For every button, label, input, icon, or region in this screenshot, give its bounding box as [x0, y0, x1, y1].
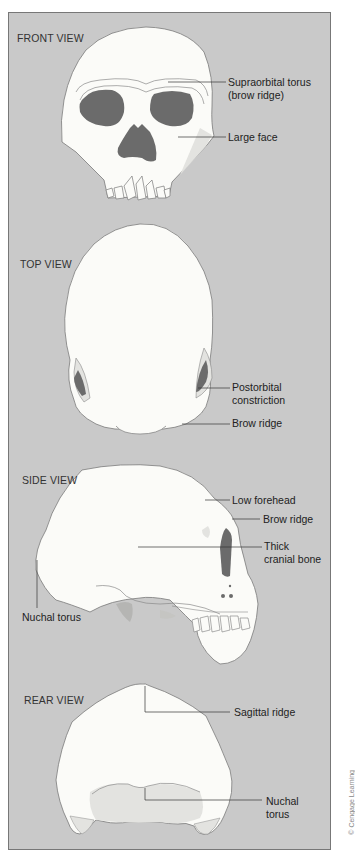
label-constriction: constriction [232, 394, 285, 407]
label-torus: torus [266, 808, 289, 821]
rear-view-skull [56, 684, 232, 835]
nasal-dot-2 [229, 594, 233, 598]
rear-view-title: REAR VIEW [24, 694, 84, 706]
cheek-patch [160, 610, 176, 619]
label-brow-ridge-paren: (brow ridge) [228, 89, 284, 102]
top-view-skull [65, 224, 213, 434]
label-nuchal-torus-side: Nuchal torus [22, 611, 81, 624]
temporal-patch [116, 602, 133, 622]
front-view-skull [61, 27, 214, 200]
side-view-title: SIDE VIEW [22, 474, 77, 486]
label-side-brow-ridge: Brow ridge [263, 513, 313, 526]
label-sagittal-ridge: Sagittal ridge [234, 706, 295, 719]
label-postorbital: Postorbital [232, 381, 282, 394]
label-large-face: Large face [228, 131, 278, 144]
top-view-title: TOP VIEW [20, 258, 72, 270]
front-view-title: FRONT VIEW [17, 32, 84, 44]
nasal-dot-1 [221, 594, 225, 598]
side-view-skull [36, 465, 258, 664]
nuchal-torus-shade [90, 784, 203, 824]
label-top-brow-ridge: Brow ridge [232, 417, 282, 430]
nasal-dot-3 [229, 585, 231, 587]
top-brow-bulge [116, 426, 166, 434]
label-nuchal: Nuchal [266, 795, 299, 808]
label-cranial-bone: cranial bone [264, 553, 321, 566]
label-thick: Thick [264, 540, 289, 553]
label-supraorbital-torus: Supraorbital torus [228, 76, 311, 89]
copyright-credit: © Cengage Learning [348, 770, 355, 835]
label-low-forehead: Low forehead [232, 494, 296, 507]
